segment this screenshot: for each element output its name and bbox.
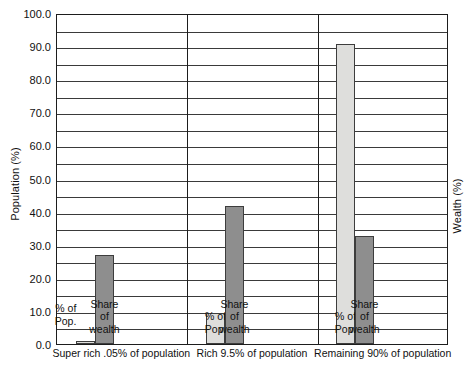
y-axis-tick-label: 50.0 [30, 174, 51, 186]
bar-label-line: Pop. [55, 315, 77, 327]
bar-label: Shareofwealth [89, 298, 119, 336]
bar-label-line: of [100, 310, 109, 322]
bar-label: % ofPop. [335, 310, 357, 335]
bar-label-line: Pop. [205, 323, 227, 335]
y-axis-tick-label: 0.0 [36, 339, 51, 351]
bar[interactable]: Shareofwealth [95, 255, 113, 344]
x-axis-category-label: Super rich .05% of population [52, 347, 190, 359]
x-axis-category-label: Remaining 90% of population [314, 347, 451, 359]
bar-label-line: of [360, 310, 369, 322]
bar-label-line: Share [90, 298, 118, 310]
bar[interactable]: % ofPop. [76, 341, 96, 344]
bar[interactable]: Shareofwealth [225, 206, 243, 344]
bar-label-line: % of [55, 302, 76, 314]
bar-label-line: % of [335, 310, 356, 322]
y-axis-tick-label: 30.0 [30, 240, 51, 252]
y-axis-tick-labels: 0.010.020.030.040.050.060.070.080.090.01… [0, 0, 56, 371]
bar-layer: % ofPop.Shareofwealth% ofPop.Shareofweal… [57, 15, 447, 344]
y-axis-tick-label: 60.0 [30, 140, 51, 152]
y-axis-tick-label: 40.0 [30, 207, 51, 219]
bar[interactable]: % ofPop. [336, 44, 356, 344]
y-axis-tick-label: 80.0 [30, 74, 51, 86]
bar-label-line: Share [350, 298, 378, 310]
y-axis-tick-label: 70.0 [30, 107, 51, 119]
bar-chart-figure: Population (%) Wealth (%) 0.010.020.030.… [0, 0, 475, 371]
plot-area: % ofPop.Shareofwealth% ofPop.Shareofweal… [56, 14, 448, 345]
x-axis-category-label: Rich 9.5% of population [197, 347, 308, 359]
bar[interactable]: % ofPop. [206, 313, 226, 344]
y-axis-tick-label: 10.0 [30, 306, 51, 318]
y-axis-tick-label: 20.0 [30, 273, 51, 285]
bar-label: % ofPop. [205, 310, 227, 335]
y-axis-title-right: Wealth (%) [451, 141, 463, 271]
bar-label-line: of [230, 310, 239, 322]
bar-label-line: Pop. [335, 323, 357, 335]
y-axis-tick-label: 100.0 [23, 8, 51, 20]
bar-label: % ofPop. [55, 302, 77, 327]
y-axis-tick-label: 90.0 [30, 41, 51, 53]
x-axis-category-labels: Super rich .05% of populationRich 9.5% o… [56, 347, 448, 367]
bar-label-line: % of [205, 310, 226, 322]
bar[interactable]: Shareofwealth [355, 236, 373, 344]
bar-label-line: wealth [89, 323, 119, 335]
bar-label-line: Share [220, 298, 248, 310]
